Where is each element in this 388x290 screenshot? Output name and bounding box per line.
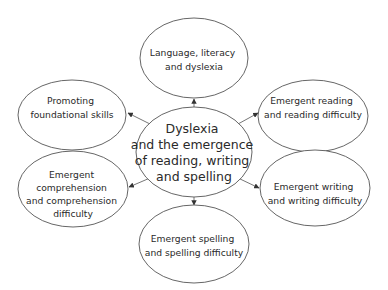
label-line: comprehension: [36, 182, 107, 193]
label-line: and the emergence: [131, 137, 254, 152]
node-bottom-ellipse: [139, 205, 249, 283]
node-top-ellipse: [140, 18, 248, 98]
label-line: and spelling: [156, 169, 232, 184]
label-line: and spelling difficulty: [145, 247, 244, 258]
node-lower-left: Emergent comprehension and comprehension…: [18, 151, 128, 227]
label-line: Promoting: [47, 95, 94, 106]
label-line: Emergent writing: [274, 181, 354, 192]
node-bottom: Emergent spelling and spelling difficult…: [139, 205, 249, 283]
edge-center-to-upper-left: [128, 113, 150, 124]
label-line: and comprehension: [26, 195, 117, 206]
label-line: Emergent reading: [270, 95, 353, 106]
label-line: and writing difficulty: [268, 195, 363, 206]
label-line: foundational skills: [30, 109, 113, 120]
label-line: Language, literacy: [150, 47, 236, 58]
label-line: Dyslexia: [166, 121, 219, 136]
edge-center-to-upper-right: [238, 113, 258, 124]
label-line: of reading, writing: [135, 153, 250, 168]
label-line: difficulty: [53, 208, 93, 219]
node-lower-right: Emergent writing and writing difficulty: [260, 150, 370, 226]
node-upper-left: Promoting foundational skills: [18, 80, 126, 150]
node-upper-right: Emergent reading and reading difficulty: [258, 80, 368, 152]
label-line: Emergent spelling: [151, 233, 234, 244]
node-center: Dyslexia and the emergence of reading, w…: [131, 107, 258, 197]
edge-center-to-lower-left: [129, 178, 150, 187]
edge-center-to-lower-right: [238, 178, 259, 188]
node-top: Language, literacy and dyslexia: [140, 18, 248, 98]
label-line: and reading difficulty: [264, 109, 362, 120]
dyslexia-concept-diagram: Language, literacy and dyslexia Promotin…: [0, 0, 388, 290]
label-line: and dyslexia: [165, 61, 223, 72]
label-line: Emergent: [49, 169, 94, 180]
